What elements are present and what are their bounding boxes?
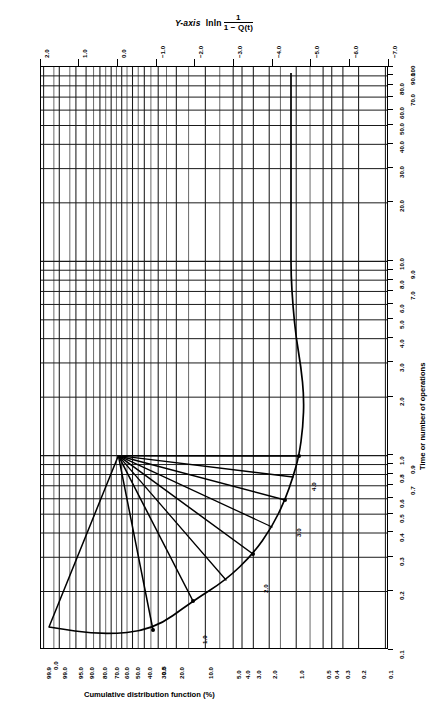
right-axis-tickmark <box>388 318 393 319</box>
top-axis-tickmark <box>272 59 273 66</box>
chart-header-formula: Y-axis lnln11 − Q(t) <box>0 14 430 34</box>
right-axis-tick-5: 50.0 <box>398 122 405 134</box>
right-axis-tickmark <box>388 66 393 67</box>
plot-grid-area <box>40 66 388 649</box>
top-axis-tickmark <box>40 59 41 66</box>
bottom-axis-tick-8: 40.0 <box>146 667 153 679</box>
right-axis-tick-25: 0.3 <box>398 558 405 567</box>
formula-fraction: 11 − Q(t) <box>224 13 253 33</box>
right-axis-tickmark <box>388 590 393 591</box>
right-axis-tickmark <box>388 303 393 304</box>
beta-label-0-0: 0.0 <box>52 661 59 670</box>
beta-tick-dot <box>191 599 195 603</box>
right-axis-tick-23: 0.5 <box>398 515 405 524</box>
right-axis-tick-24: 0.4 <box>398 533 405 542</box>
right-axis-tick-16: 3.0 <box>398 363 405 372</box>
bottom-axis-tick-21: 0.1 <box>387 670 394 679</box>
grid-and-curves <box>41 67 388 649</box>
right-axis-tick-2: 80.0 <box>398 83 405 95</box>
right-axis-tick-19: 0.9 <box>409 465 416 474</box>
top-axis-tick-7: −5.0 <box>313 46 320 58</box>
right-axis-tick-22: 0.6 <box>398 499 405 508</box>
right-axis-tick-18: 1.0 <box>398 456 405 465</box>
right-axis-tickmark <box>388 361 393 362</box>
right-axis-tick-8: 20.0 <box>398 200 405 212</box>
right-axis-tick-9: 10.0 <box>398 258 405 270</box>
beta-label-1-0: 1.0 <box>201 635 208 644</box>
beta-tick-dot <box>151 628 155 632</box>
right-axis-tick-1: 90.0 <box>409 73 416 85</box>
right-axis-tick-26: 0.2 <box>398 592 405 601</box>
bottom-axis-tick-2: 95.0 <box>77 667 84 679</box>
right-axis-tickmark <box>388 290 393 291</box>
right-axis-tick-7: 30.0 <box>398 166 405 178</box>
right-axis-tickmark <box>388 463 393 464</box>
top-axis-tick-4: −2.0 <box>197 46 204 58</box>
beta-label-0-5: 0.5 <box>160 666 167 675</box>
bottom-axis-tick-3: 90.0 <box>88 667 95 679</box>
right-axis-title: Time or number of operations <box>418 363 427 470</box>
right-axis-tickmark <box>388 473 393 474</box>
right-axis-tick-20: 0.8 <box>398 475 405 484</box>
right-axis-tickmark <box>388 269 393 270</box>
right-axis-tickmark <box>388 124 393 125</box>
right-axis-tickmark <box>388 337 393 338</box>
beta-tick-dot <box>251 552 255 556</box>
bottom-axis-tick-6: 60.0 <box>123 667 130 679</box>
top-axis-tickmark <box>117 59 118 66</box>
beta-label-3-0: 3.0 <box>295 528 302 537</box>
right-axis-tickmark <box>388 74 393 75</box>
bottom-axis-tick-11: 10.0 <box>207 667 214 679</box>
beta-tick-dot <box>283 498 287 502</box>
bottom-axis-tick-16: 1.0 <box>298 670 305 679</box>
bottom-axis-tick-7: 50.0 <box>134 667 141 679</box>
right-axis-tickmark <box>388 497 393 498</box>
top-axis-tick-0: 2.0 <box>43 49 50 58</box>
top-axis-tick-2: 0.0 <box>120 49 127 58</box>
top-axis-tickmark <box>310 59 311 66</box>
right-axis-tickmark <box>388 143 393 144</box>
right-axis-tick-17: 2.0 <box>398 398 405 407</box>
top-axis-tick-3: −1.0 <box>159 46 166 58</box>
right-axis-tick-14: 5.0 <box>398 320 405 329</box>
top-axis-tickmark <box>194 59 195 66</box>
top-axis-tickmark <box>233 59 234 66</box>
bottom-axis-tick-10: 20.0 <box>178 667 185 679</box>
top-axis-tickmark <box>78 59 79 66</box>
top-axis-tick-5: −3.0 <box>236 46 243 58</box>
right-axis-tickmark <box>388 484 393 485</box>
right-axis-tick-3: 70.0 <box>409 94 416 106</box>
function-name: lnln <box>206 18 222 28</box>
right-axis-tickmark <box>388 84 393 85</box>
weibull-probability-paper: Y-axis lnln11 − Q(t) 2.01.00.0−1.0−2.0−3… <box>0 0 430 713</box>
right-axis-tickmark <box>388 649 393 650</box>
right-axis-tickmark <box>388 201 393 202</box>
top-axis-tick-8: −6.0 <box>352 46 359 58</box>
bottom-axis-tick-1: 99.0 <box>61 667 68 679</box>
bottom-axis-tick-14: 3.0 <box>255 670 262 679</box>
beta-label-4-0: 4.0 <box>310 482 317 491</box>
top-axis-tickmark <box>349 59 350 66</box>
top-axis-tick-1: 1.0 <box>81 49 88 58</box>
right-axis-tick-12: 7.0 <box>409 292 416 301</box>
right-axis-tick-21: 0.7 <box>409 486 416 495</box>
right-axis-tickmark <box>388 396 393 397</box>
right-axis-tick-13: 6.0 <box>398 305 405 314</box>
top-axis-tick-6: −4.0 <box>275 46 282 58</box>
right-axis-tick-10: 9.0 <box>409 271 416 280</box>
bottom-axis-tick-15: 2.0 <box>271 670 278 679</box>
fraction-denominator: 1 − Q(t) <box>224 22 253 33</box>
beta-label-2-0: 2.0 <box>262 584 269 593</box>
fraction-numerator: 1 <box>224 13 253 22</box>
bottom-axis-tick-5: 70.0 <box>113 667 120 679</box>
y-axis-label: Y-axis <box>175 18 201 28</box>
right-axis-tickmark <box>388 531 393 532</box>
right-axis-tick-11: 8.0 <box>398 281 405 290</box>
right-axis-tickmark <box>388 279 393 280</box>
top-axis-tickmark <box>156 59 157 66</box>
bottom-axis-tick-20: 0.2 <box>360 670 367 679</box>
right-axis-tick-4: 60.0 <box>398 107 405 119</box>
right-axis-tick-27: 0.1 <box>398 650 405 659</box>
bottom-axis-title: Cumulative distribution function (%) <box>84 690 215 699</box>
right-axis-tickmark <box>388 454 393 455</box>
